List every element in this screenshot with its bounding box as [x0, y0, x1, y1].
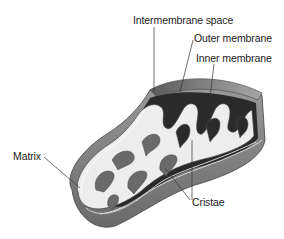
label-cristae: Cristae — [192, 196, 225, 208]
label-inner-membrane: Inner membrane — [196, 52, 272, 64]
label-intermembrane-space: Intermembrane space — [133, 14, 233, 26]
label-matrix: Matrix — [13, 150, 41, 162]
label-outer-membrane: Outer membrane — [194, 32, 272, 44]
